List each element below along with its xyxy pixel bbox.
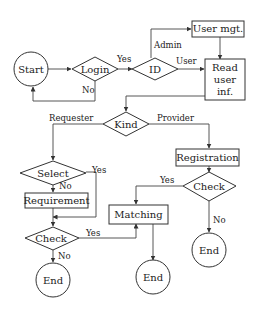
label-check-left-no: No bbox=[58, 251, 71, 261]
node-user-mgt: User mgt. bbox=[192, 21, 244, 37]
node-end-left-label: End bbox=[43, 275, 64, 286]
node-read-user-inf: Read user inf. bbox=[205, 59, 245, 100]
node-login: Login bbox=[72, 57, 118, 81]
edge-kind-select bbox=[53, 124, 103, 160]
label-kind-provider: Provider bbox=[157, 113, 195, 123]
label-id-user: User bbox=[176, 56, 198, 66]
label-check-right-yes: Yes bbox=[159, 175, 174, 185]
label-kind-requester: Requester bbox=[49, 113, 94, 123]
label-login-yes: Yes bbox=[116, 54, 131, 64]
node-start: Start bbox=[14, 52, 48, 86]
node-kind: Kind bbox=[103, 112, 149, 136]
node-read-line-1: Read bbox=[212, 62, 238, 73]
node-login-label: Login bbox=[81, 64, 110, 75]
node-end-middle-label: End bbox=[143, 272, 164, 283]
node-select-label: Select bbox=[37, 168, 69, 179]
label-check-right-no: No bbox=[213, 215, 226, 225]
node-end-right: End bbox=[192, 233, 226, 267]
edge-checkright-matching bbox=[136, 186, 183, 204]
node-start-label: Start bbox=[18, 64, 44, 75]
node-read-line-2: user bbox=[214, 74, 236, 85]
node-check-left: Check bbox=[25, 227, 79, 250]
node-read-line-3: inf. bbox=[217, 86, 233, 97]
label-id-admin: Admin bbox=[153, 40, 182, 50]
label-check-left-yes: Yes bbox=[85, 228, 100, 238]
edge-kind-registration bbox=[149, 124, 209, 148]
node-matching-label: Matching bbox=[114, 209, 163, 220]
node-check-right: Check bbox=[183, 172, 236, 201]
node-registration: Registration bbox=[176, 149, 239, 166]
node-end-middle: End bbox=[136, 260, 170, 294]
node-id-label: ID bbox=[149, 64, 161, 75]
label-login-no: No bbox=[82, 85, 95, 95]
node-check-left-label: Check bbox=[35, 233, 68, 244]
label-select-no: No bbox=[59, 181, 72, 191]
node-check-right-label: Check bbox=[193, 181, 226, 192]
label-select-yes: Yes bbox=[91, 165, 106, 175]
edge-read-kind bbox=[126, 96, 205, 111]
node-end-left: End bbox=[36, 263, 70, 297]
node-matching: Matching bbox=[109, 205, 168, 224]
node-requirement-label: Requirement bbox=[23, 195, 89, 206]
node-end-right-label: End bbox=[199, 245, 220, 256]
node-requirement: Requirement bbox=[23, 193, 89, 208]
flowchart: Start Login ID User mgt. Read user inf. … bbox=[0, 0, 256, 313]
node-user-mgt-label: User mgt. bbox=[193, 23, 244, 34]
node-kind-label: Kind bbox=[114, 119, 138, 130]
node-select: Select bbox=[20, 161, 86, 185]
node-id: ID bbox=[132, 58, 178, 80]
node-registration-label: Registration bbox=[176, 152, 239, 163]
